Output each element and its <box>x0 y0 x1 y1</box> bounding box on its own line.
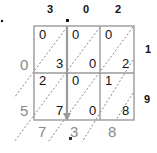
cell-tens: 0 <box>72 73 79 88</box>
bottom-sum: 7 <box>38 123 46 140</box>
decimal-dot-top <box>66 19 69 22</box>
left-sum: 5 <box>20 102 28 119</box>
left-sum: 0 <box>20 56 28 73</box>
cell-tens: 2 <box>39 73 46 88</box>
cell-ones: 2 <box>122 56 129 71</box>
cell-tens: 0 <box>105 27 112 42</box>
cell-tens: 0 <box>72 27 79 42</box>
cell-ones: 3 <box>56 56 63 71</box>
cell-ones: 0 <box>89 103 96 118</box>
cell-tens: 0 <box>39 27 46 42</box>
multiplicand-digit-2: 0 <box>83 3 89 15</box>
multiplicand-digit-3: 2 <box>115 3 121 15</box>
multiplier-digit-1: 1 <box>145 43 151 55</box>
multiplicand-digit-1: 3 <box>47 3 53 15</box>
bottom-sum: 8 <box>108 123 116 140</box>
bottom-sum: 3 <box>70 123 78 140</box>
cell-ones: 7 <box>56 103 63 118</box>
multiplier-digit-2: 9 <box>144 93 150 105</box>
cell-ones: 0 <box>89 56 96 71</box>
cell-tens: 1 <box>105 73 112 88</box>
cell-ones: 8 <box>122 103 129 118</box>
decimal-dot-left <box>1 20 3 22</box>
